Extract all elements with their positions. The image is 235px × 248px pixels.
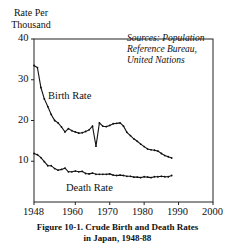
y-tick-20: 20 <box>18 114 29 125</box>
x-tick-1970: 1970 <box>97 206 118 217</box>
caption-line1: Figure 10-1. Crude Birth and Death Rates <box>0 222 235 233</box>
x-tick-2000: 2000 <box>202 206 223 217</box>
figure-caption: Figure 10-1. Crude Birth and Death Rates… <box>0 222 235 244</box>
x-tick-1948: 1948 <box>23 206 44 217</box>
y-tick-40: 40 <box>18 32 29 43</box>
source-line1: Sources: Population <box>127 33 232 44</box>
birth-rate-line <box>34 66 172 159</box>
y-tick-10: 10 <box>18 154 29 165</box>
source-annotation: Sources: Population Reference Bureau, Un… <box>127 33 232 66</box>
y-tick-30: 30 <box>18 73 29 84</box>
x-tick-1990: 1990 <box>167 206 188 217</box>
x-tick-1980: 1980 <box>132 206 153 217</box>
birth-rate-label: Birth Rate <box>48 90 91 101</box>
death-rate-label: Death Rate <box>66 182 113 193</box>
source-line3: United Nations <box>127 55 232 66</box>
source-line2: Reference Bureau, <box>127 44 232 55</box>
caption-line2: in Japan, 1948-88 <box>0 233 235 244</box>
x-tick-1960: 1960 <box>62 206 83 217</box>
